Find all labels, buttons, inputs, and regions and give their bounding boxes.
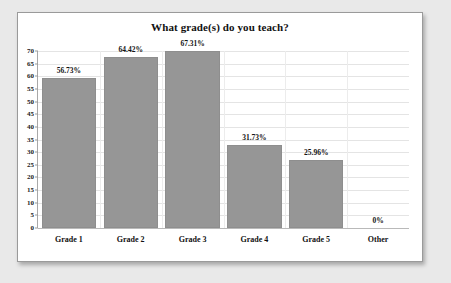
bar-group: 64.42%Grade 2 [100,51,162,228]
bar-group: 25.96%Grade 5 [285,51,347,228]
y-axis-tick-label: 15 [27,186,34,194]
bar-value-label: 25.96% [285,148,347,157]
bar-group: 56.73%Grade 1 [38,51,100,228]
category-separator [224,51,225,228]
chart-frame: What grade(s) do you teach? 051015202530… [17,12,423,262]
bar-value-label: 56.73% [38,66,100,75]
bar-value-label: 64.42% [100,45,162,54]
y-axis-tick-label: 70 [27,47,34,55]
x-axis-category-label: Grade 5 [285,235,347,244]
category-separator [285,51,286,228]
y-axis-tick-label: 60 [27,72,34,80]
y-axis-tick-label: 10 [27,199,34,207]
category-separator [347,51,348,228]
x-axis-category-label: Grade 3 [162,235,224,244]
bar-group: 31.73%Grade 4 [224,51,286,228]
y-axis-tick-label: 45 [27,110,34,118]
gridline [38,228,409,229]
x-axis-category-label: Grade 1 [38,235,100,244]
y-axis-tick-label: 55 [27,85,34,93]
bar-value-label: 0% [347,216,409,225]
chart-title: What grade(s) do you teach? [18,21,422,33]
x-axis-category-label: Grade 4 [224,235,286,244]
bar-value-label: 67.31% [162,39,224,48]
y-axis-tick-label: 65 [27,60,34,68]
y-axis-tick-label: 25 [27,161,34,169]
bar-group: 67.31%Grade 3 [162,51,224,228]
bar-group: 0%Other [347,51,409,228]
y-axis-tick-label: 0 [31,224,35,232]
y-axis-tick-label: 5 [31,211,35,219]
bar[interactable] [289,160,343,228]
y-axis-tick-label: 35 [27,136,34,144]
plot-area: 051015202530354045505560657056.73%Grade … [38,51,409,228]
category-separator [162,51,163,228]
category-separator [100,51,101,228]
bar[interactable] [227,145,281,228]
x-axis-category-label: Grade 2 [100,235,162,244]
y-axis-tick-label: 30 [27,148,34,156]
bar-value-label: 31.73% [224,133,286,142]
bar[interactable] [104,57,158,228]
bar[interactable] [165,51,219,228]
x-axis-category-label: Other [347,235,409,244]
bar[interactable] [42,78,96,228]
y-axis-tick-label: 40 [27,123,34,131]
y-axis-tick-label: 20 [27,173,34,181]
y-axis-tick-label: 50 [27,98,34,106]
